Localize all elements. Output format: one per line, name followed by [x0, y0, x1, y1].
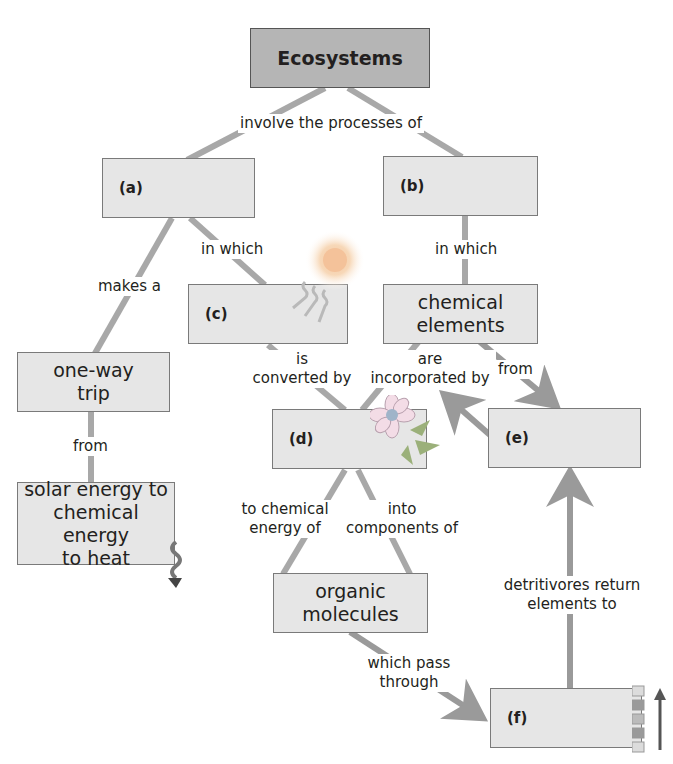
link-incorporated: are incorporated by — [364, 350, 496, 388]
link-which-pass: which pass through — [362, 654, 456, 692]
link-from-trip: from — [71, 437, 110, 456]
node-one-way-trip: one-way trip — [17, 352, 170, 412]
solar-energy-line3: to heat — [18, 547, 174, 570]
node-ecosystems: Ecosystems — [250, 28, 430, 88]
node-a: (a) — [102, 158, 255, 218]
chemical-elements-line1: chemical — [416, 291, 504, 314]
one-way-trip-line1: one-way — [53, 359, 134, 382]
solar-energy-line1: solar energy to — [18, 478, 174, 501]
link-into-components: into components of — [340, 500, 464, 538]
node-solar-energy: solar energy to chemical energy to heat — [17, 482, 175, 565]
link-from-elements: from — [496, 360, 535, 379]
link-detritivores-line1: detritivores return — [500, 576, 644, 595]
node-f: (f) — [490, 688, 642, 748]
node-chemical-elements: chemical elements — [383, 284, 538, 344]
link-incorporated-line2: incorporated by — [366, 369, 494, 388]
node-f-label: (f) — [507, 707, 527, 730]
link-which-pass-line2: through — [364, 673, 454, 692]
link-to-chemical: to chemical energy of — [236, 500, 334, 538]
node-ecosystems-label: Ecosystems — [277, 47, 402, 70]
node-e: (e) — [488, 408, 641, 468]
heat-wave-icon — [164, 540, 186, 590]
link-to-chemical-line2: energy of — [238, 519, 332, 538]
link-detritivores: detritivores return elements to — [498, 576, 646, 614]
node-a-label: (a) — [119, 177, 143, 200]
one-way-trip-line2: trip — [53, 382, 134, 405]
flower-icon — [370, 395, 445, 470]
link-incorporated-line1: are — [366, 350, 494, 369]
light-rays-icon — [275, 278, 335, 328]
link-is-converted-line2: converted by — [240, 369, 364, 388]
node-organic-molecules: organic molecules — [273, 573, 428, 633]
chemical-elements-line2: elements — [416, 314, 504, 337]
link-into-components-line2: components of — [342, 519, 462, 538]
organic-molecules-line1: organic — [302, 580, 398, 603]
link-to-chemical-line1: to chemical — [238, 500, 332, 519]
node-d-label: (d) — [289, 428, 313, 451]
link-makes-a: makes a — [96, 277, 163, 296]
link-in-which-a: in which — [199, 240, 265, 259]
solar-energy-line2: chemical energy — [18, 501, 174, 547]
link-which-pass-line1: which pass — [364, 654, 454, 673]
trophic-levels-icon — [632, 684, 672, 754]
link-in-which-b: in which — [433, 240, 499, 259]
link-is-converted-line1: is — [240, 350, 364, 369]
node-e-label: (e) — [505, 427, 529, 450]
link-detritivores-line2: elements to — [500, 595, 644, 614]
organic-molecules-line2: molecules — [302, 603, 398, 626]
node-b-label: (b) — [400, 175, 424, 198]
node-b: (b) — [383, 156, 538, 216]
link-into-components-line1: into — [342, 500, 462, 519]
node-c-label: (c) — [205, 303, 228, 326]
link-involve: involve the processes of — [238, 114, 424, 133]
link-is-converted: is converted by — [238, 350, 366, 388]
